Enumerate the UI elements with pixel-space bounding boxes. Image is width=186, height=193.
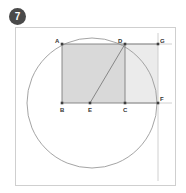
rectangle-abcd-fill xyxy=(62,44,125,103)
point-marker-g xyxy=(157,43,160,46)
point-label-a: A xyxy=(55,38,60,44)
point-marker-e xyxy=(89,102,92,105)
point-marker-d xyxy=(124,43,127,46)
point-label-f: F xyxy=(160,96,164,102)
point-label-e: E xyxy=(88,107,92,113)
figure-screenshot: 7 xyxy=(0,0,186,193)
point-label-c: C xyxy=(123,107,128,113)
point-marker-f xyxy=(157,102,160,105)
point-marker-c xyxy=(124,102,127,105)
point-label-g: G xyxy=(160,38,165,44)
point-marker-a xyxy=(61,43,64,46)
shaded-regions xyxy=(62,44,158,103)
point-label-b: B xyxy=(60,107,65,113)
geometry-diagram: A D G B E C F xyxy=(0,0,186,193)
rectangle-dcfg-fill xyxy=(125,44,158,103)
point-label-d: D xyxy=(118,38,123,44)
point-marker-b xyxy=(61,102,64,105)
